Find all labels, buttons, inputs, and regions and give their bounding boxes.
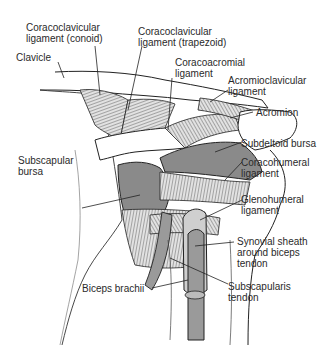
label-coracohumeral: Coracohumeral ligament (241, 157, 309, 179)
label-subdeltoid-bursa: Subdeltoid bursa (241, 138, 316, 149)
label-glenohumeral: Glenohumeral ligament (241, 194, 304, 216)
label-acromion: Acromion (256, 107, 298, 118)
label-acromioclavicular: Acromioclavicular ligament (228, 75, 306, 97)
label-biceps-brachii: Biceps brachii (82, 283, 144, 294)
label-clavicle: Clavicle (16, 52, 51, 63)
conoid-ligament-shape (80, 89, 128, 140)
label-subscapular-bursa: Subscapular bursa (18, 155, 74, 177)
label-coracoclavicular-conoid: Coracoclavicular ligament (conoid) (26, 22, 103, 44)
label-coracoclavicular-trapezoid: Coracoclavicular ligament (trapezoid) (138, 26, 226, 48)
label-subscapularis-tendon: Subscapularis tendon (228, 281, 291, 303)
label-synovial-sheath: Synovial sheath around biceps tendon (237, 236, 308, 269)
